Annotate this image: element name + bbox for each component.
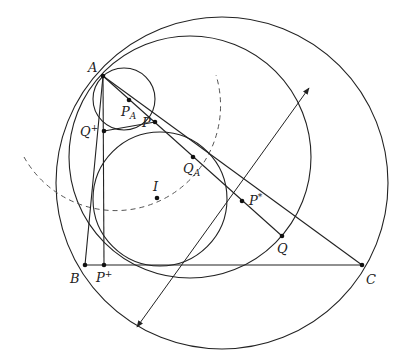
- label-A: A: [87, 60, 97, 75]
- label-Q-plus: Q+: [80, 123, 98, 139]
- altitude-A-Pplus: [103, 76, 104, 265]
- label-P-plus: P+: [95, 269, 112, 285]
- point-i: [155, 196, 160, 201]
- label-C: C: [366, 272, 376, 287]
- point-q-plus: [102, 129, 107, 134]
- point-q: [280, 234, 285, 239]
- point-b: [83, 263, 88, 268]
- label-B: B: [69, 271, 80, 286]
- label-I: I: [152, 179, 159, 194]
- label-Q: Q: [277, 241, 288, 256]
- point-c: [360, 263, 365, 268]
- point-p-plus: [102, 263, 107, 268]
- point-p: [153, 120, 158, 125]
- point-a: [101, 74, 106, 79]
- circle-through-A-and-Q: [69, 36, 311, 278]
- dashed-arc: [24, 75, 221, 211]
- point-q-a: [191, 155, 196, 160]
- label-P: P: [141, 115, 151, 130]
- geometry-diagram: A B C P+ Q+ P PA QA I P* Q: [0, 0, 396, 360]
- side-AC: [103, 76, 362, 265]
- label-P-star: P*: [248, 192, 263, 208]
- point-p-star: [240, 199, 245, 204]
- point-p-a: [127, 98, 132, 103]
- label-Q-A: QA: [183, 161, 201, 178]
- label-P-A: PA: [120, 104, 137, 121]
